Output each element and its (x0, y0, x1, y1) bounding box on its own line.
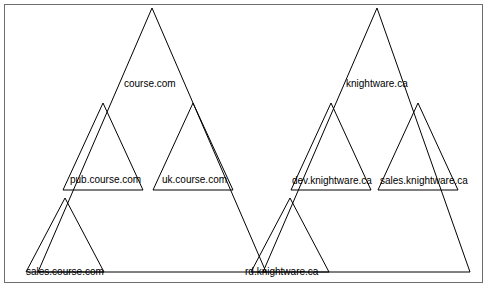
label-knightware-ca: knightware.ca (346, 78, 408, 90)
course-com-triangle (38, 8, 266, 272)
label-pub-course-com: pub.course.com (70, 174, 141, 186)
label-dev-knightware-ca: dev.knightware.ca (292, 175, 372, 187)
label-rd-knightware-ca: rd.knightware.ca (245, 266, 318, 278)
knightware-ca-triangle (263, 8, 470, 272)
label-uk-course-com: uk.course.com (162, 174, 227, 186)
triangles-group (26, 8, 470, 272)
diagram-canvas: course.com knightware.ca pub.course.com … (0, 0, 491, 290)
label-sales-knightware-ca: sales.knightware.ca (380, 175, 468, 187)
triangle-hierarchy-graphic (0, 0, 491, 290)
label-course-com: course.com (124, 78, 176, 90)
label-sales-course-com: sales.course.com (26, 266, 104, 278)
